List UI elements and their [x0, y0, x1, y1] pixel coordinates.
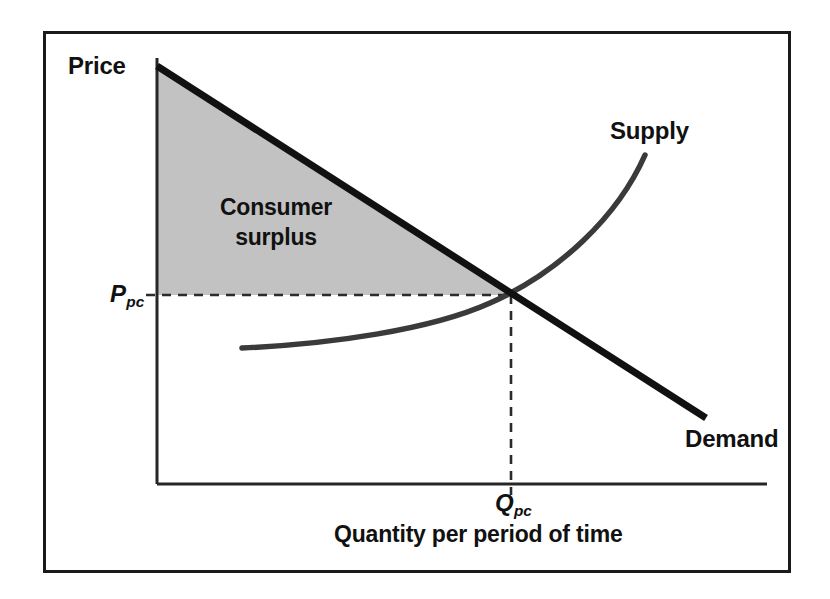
y-axis-title: Price	[68, 52, 126, 80]
supply-demand-figure: Price Supply Demand Consumersurplus Quan…	[0, 0, 830, 599]
consumer-surplus-label: Consumersurplus	[196, 192, 356, 253]
equilibrium-quantity-symbol: Q	[495, 489, 514, 516]
equilibrium-price-subscript: pc	[126, 293, 144, 310]
equilibrium-price-symbol: P	[110, 280, 126, 307]
equilibrium-quantity-subscript: pc	[514, 502, 532, 519]
demand-curve-label: Demand	[685, 425, 779, 453]
x-axis-title: Quantity per period of time	[334, 521, 623, 548]
equilibrium-price-label: Ppc	[110, 280, 144, 308]
equilibrium-quantity-label: Qpc	[495, 489, 532, 517]
consumer-surplus-label-line1: Consumer	[220, 194, 332, 220]
consumer-surplus-label-line2: surplus	[235, 224, 317, 250]
supply-curve-label: Supply	[610, 117, 689, 145]
